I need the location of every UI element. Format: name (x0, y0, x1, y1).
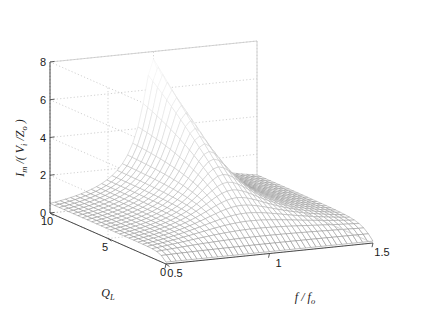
x-title-sub: o (311, 296, 315, 306)
z-title-part-4: ) (13, 119, 27, 126)
z-tick-8: 8 (40, 56, 46, 68)
svg-text:f / fo: f / fo (295, 290, 315, 306)
x-tick-0.5: 0.5 (167, 267, 182, 279)
svg-text:Im /( Vi /Zo ): Im /( Vi /Zo ) (13, 119, 29, 177)
z-title-part-2: /( V (13, 144, 27, 166)
y-tick-5: 5 (102, 241, 108, 253)
svg-text:QL: QL (101, 286, 115, 302)
z-axis-title: Im /( Vi /Zo ) (13, 119, 29, 177)
y-title-main: Q (101, 286, 110, 300)
surface-mesh (50, 59, 373, 262)
x-title-main: f / f (295, 290, 313, 304)
y-axis-title: QL (101, 286, 115, 302)
y-tick-10: 10 (41, 215, 53, 227)
y-tick-0: 0 (160, 266, 166, 278)
x-axis-title: f / fo (295, 290, 315, 306)
y-title-sub: L (109, 292, 115, 302)
x-tick-1.5: 1.5 (374, 246, 389, 258)
z-tick-6: 6 (40, 94, 46, 106)
z-tick-4: 4 (40, 132, 46, 144)
z-title-part-3: /Z (13, 130, 27, 143)
z-tick-2: 2 (40, 169, 46, 181)
x-tick-1: 1 (275, 257, 281, 269)
figure-canvas: 0246805100.511.5 Im /( Vi /Zo ) QL f / f… (0, 0, 432, 332)
surface-plot-3d: 0246805100.511.5 Im /( Vi /Zo ) QL f / f… (0, 0, 432, 332)
